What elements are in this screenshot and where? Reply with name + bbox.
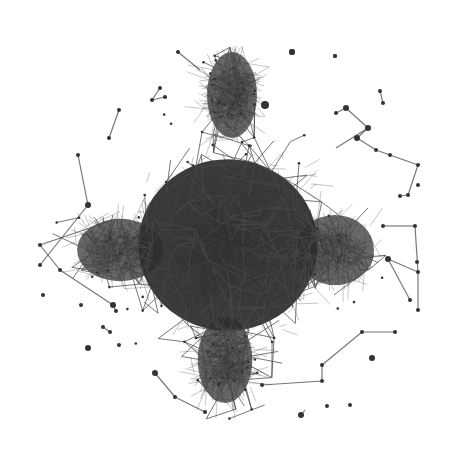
graph-node [141,309,144,312]
graph-node [163,113,166,116]
graph-edge [175,397,205,412]
graph-node [211,325,214,328]
graph-node [325,404,329,408]
graph-node [101,325,105,329]
graph-node [220,197,223,200]
graph-node [298,412,304,418]
graph-node [298,162,301,165]
graph-node [328,215,331,218]
graph-node [218,382,221,385]
graph-node [192,164,195,167]
graph-node [239,351,242,354]
graph-node [303,209,306,212]
graph-node [117,108,121,112]
graph-node [218,101,221,104]
graph-node [133,237,136,240]
graph-node [378,89,382,93]
graph-edge [346,108,368,128]
graph-node [227,339,230,342]
graph-node [110,302,116,308]
graph-node [241,362,244,365]
graph-node [337,234,340,237]
graph-node [253,103,256,106]
graph-edge [308,240,309,259]
graph-node [227,377,230,380]
graph-node [267,271,270,274]
graph-node [360,330,364,334]
graph-node [85,202,91,208]
graph-node [381,277,384,280]
graph-node [197,379,200,382]
graph-node [229,224,232,227]
graph-node [303,134,306,137]
graph-node [275,289,278,292]
graph-node [296,257,299,260]
graph-node [254,90,257,93]
graph-node [209,377,212,380]
graph-node [256,371,259,374]
graph-node [187,307,190,310]
graph-edge [408,165,418,195]
graph-node [141,296,144,299]
graph-node [41,293,45,297]
graph-edge [290,135,304,142]
graph-node [288,255,291,258]
graph-node [108,330,112,334]
graph-edge [297,171,318,194]
graph-edge [297,303,319,304]
graph-node [245,153,248,156]
graph-node [416,308,420,312]
graph-node [125,262,128,265]
graph-node [308,238,311,241]
graph-node [308,250,311,253]
graph-node [135,342,138,345]
graph-node [320,379,324,383]
graph-edge [315,288,330,305]
graph-node [264,294,267,297]
graph-node [106,241,109,244]
graph-node [365,125,371,131]
graph-node [385,256,391,262]
graph-node [415,260,419,264]
graph-node [55,221,58,224]
graph-node [241,370,244,373]
graph-node [226,216,229,219]
graph-node [38,263,42,267]
graph-node [354,135,360,141]
graph-edge [305,159,320,167]
graph-node [333,54,337,58]
graph-node [253,93,256,96]
graph-node [198,313,201,316]
graph-node [381,224,385,228]
graph-node [232,322,235,325]
graph-edge [78,155,88,205]
graph-node [214,111,217,114]
graph-node [204,325,207,328]
graph-node [244,335,247,338]
graph-edge [40,245,60,270]
graph-node [163,95,167,99]
graph-node [143,194,146,197]
graph-node [320,363,324,367]
graph-node [271,341,274,344]
graph-node [213,55,216,58]
graph-node [232,66,235,69]
graph-node [416,163,420,167]
graph-node [241,245,244,248]
graph-node [201,131,204,134]
graph-node [369,355,375,361]
graph-node [126,308,129,311]
graph-node [211,99,214,102]
graph-node [330,241,333,244]
graph-node [233,192,236,195]
graph-edge [250,387,255,401]
graph-node [260,383,264,387]
graph-node [165,181,168,184]
top-clip-band [0,0,453,46]
graph-edge [322,332,362,365]
graph-edge [230,224,268,225]
graph-node [198,239,201,242]
graph-node [314,273,317,276]
graph-node [261,214,264,217]
graph-edge [231,162,232,174]
